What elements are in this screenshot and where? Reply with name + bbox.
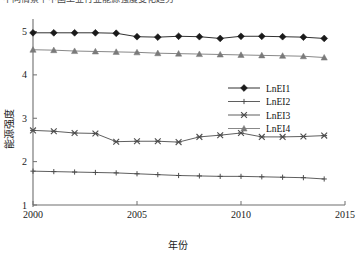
- data-point-plus-marker: [114, 170, 119, 175]
- figure-caption-strip: 不同情景下中国工业行业能源强度变化趋势: [0, 0, 356, 9]
- data-point-plus-marker: [134, 171, 139, 176]
- data-point-cross-marker: [155, 138, 161, 144]
- data-point-plus-marker: [93, 170, 98, 175]
- legend-item-lnei4[interactable]: LnEI4: [228, 124, 291, 134]
- x-tick-label: 2005: [127, 209, 147, 220]
- data-point-diamond-marker: [217, 35, 224, 42]
- data-point-cross-marker: [72, 130, 78, 136]
- series-lnei4: [30, 47, 327, 60]
- series-lnei2: [30, 169, 326, 182]
- data-point-diamond-marker: [134, 33, 141, 40]
- data-point-diamond-marker: [321, 35, 328, 42]
- data-point-plus-marker: [72, 169, 77, 174]
- data-point-cross-marker: [301, 134, 307, 140]
- x-tick-label: 2015: [335, 209, 355, 220]
- data-point-diamond-marker: [196, 33, 203, 40]
- line-chart: 12345 2000200520102015 LnEI1LnEI2LnEI3Ln…: [0, 9, 356, 260]
- legend-item-lnei3[interactable]: LnEI3: [228, 111, 291, 121]
- legend-item-lnei1[interactable]: LnEI1: [228, 84, 291, 94]
- data-point-diamond-marker: [175, 33, 182, 40]
- data-point-cross-marker: [176, 139, 182, 145]
- data-point-cross-marker: [197, 134, 203, 140]
- y-tick-label: 3: [22, 113, 27, 124]
- legend-label: LnEI4: [266, 124, 291, 134]
- data-point-plus-marker: [197, 173, 202, 178]
- data-point-diamond-marker: [238, 33, 245, 40]
- y-tick-label: 5: [22, 26, 27, 37]
- data-point-plus-marker: [259, 174, 264, 179]
- data-point-diamond-marker: [279, 33, 286, 40]
- data-point-plus-marker: [280, 175, 285, 180]
- y-tick-label: 4: [22, 69, 27, 80]
- data-point-plus-marker: [30, 169, 35, 174]
- data-point-cross-marker: [321, 133, 327, 139]
- data-point-diamond-marker: [113, 30, 120, 37]
- figure-caption-text: 不同情景下中国工业行业能源强度变化趋势: [3, 0, 174, 5]
- data-point-diamond-marker: [241, 85, 248, 92]
- data-point-diamond-marker: [258, 33, 265, 40]
- x-tick-label: 2010: [231, 209, 251, 220]
- data-point-diamond-marker: [300, 34, 307, 41]
- data-point-cross-marker: [113, 139, 119, 145]
- x-axis: 2000200520102015: [23, 201, 355, 220]
- data-point-cross-marker: [93, 131, 99, 137]
- data-point-cross-marker: [134, 138, 140, 144]
- data-point-plus-marker: [241, 99, 246, 104]
- data-point-plus-marker: [218, 174, 223, 179]
- data-point-plus-marker: [322, 176, 327, 181]
- y-axis: 12345: [22, 19, 37, 211]
- data-point-plus-marker: [51, 169, 56, 174]
- data-point-plus-marker: [176, 173, 181, 178]
- chart-canvas: 12345 2000200520102015 LnEI1LnEI2LnEI3Ln…: [0, 9, 356, 260]
- legend-label: LnEI1: [266, 84, 291, 94]
- legend-label: LnEI3: [266, 111, 291, 121]
- x-tick-label: 2000: [23, 209, 43, 220]
- x-axis-title: 年份: [168, 239, 188, 251]
- y-axis-title: 能源强度: [3, 109, 15, 149]
- series-lnei1: [30, 29, 328, 41]
- chart-legend: LnEI1LnEI2LnEI3LnEI4: [225, 78, 343, 137]
- data-point-diamond-marker: [50, 29, 57, 36]
- data-point-cross-marker: [259, 134, 265, 140]
- data-point-cross-marker: [51, 128, 57, 134]
- data-point-plus-marker: [301, 175, 306, 180]
- data-point-plus-marker: [155, 172, 160, 177]
- data-point-diamond-marker: [154, 34, 161, 41]
- legend-label: LnEI2: [266, 97, 291, 107]
- data-point-cross-marker: [280, 134, 286, 140]
- y-tick-label: 2: [22, 156, 27, 167]
- data-point-diamond-marker: [71, 29, 78, 36]
- legend-item-lnei2[interactable]: LnEI2: [228, 97, 291, 107]
- data-point-cross-marker: [241, 112, 247, 118]
- data-point-diamond-marker: [92, 29, 99, 36]
- data-point-cross-marker: [217, 132, 223, 138]
- data-point-plus-marker: [238, 174, 243, 179]
- data-point-diamond-marker: [30, 29, 37, 36]
